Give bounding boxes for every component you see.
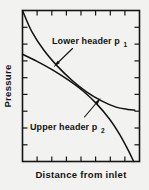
x-axis-title: Distance from inlet	[35, 169, 127, 180]
y-axis-title: Pressure	[2, 64, 13, 107]
series-label-lower-header-p1-subscript: 1	[124, 41, 128, 48]
chart-screenshot: Lower header p 1 Upper header p 2 Distan…	[0, 0, 149, 190]
pressure-distance-chart: Lower header p 1 Upper header p 2 Distan…	[0, 0, 149, 190]
series-label-upper-header-p2: Upper header p 2	[30, 122, 105, 134]
series-label-upper-header-p2-text: Upper header p	[30, 122, 98, 132]
series-label-upper-header-p2-subscript: 2	[101, 127, 105, 134]
series-label-lower-header-p1-text: Lower header p	[52, 36, 120, 46]
series-label-lower-header-p1: Lower header p 1	[52, 36, 128, 48]
